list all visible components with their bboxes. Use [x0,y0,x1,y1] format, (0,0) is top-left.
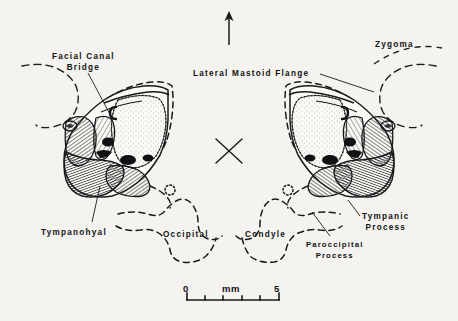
label-lateral-mastoid-flange: Lateral Mastoid Flange [193,69,309,80]
left-petrosal-specimen [22,64,173,208]
right-petrosal-specimen [285,64,436,208]
scale-bar-end-label: 5 [274,283,280,294]
label-facial-canal-bridge-line1: Facial Canal [52,52,115,63]
label-occipital: Occipital [163,230,209,241]
label-paroccipital-process-line1: Paroccipital [306,240,363,251]
label-facial-canal-bridge: Facial Canal Bridge [52,52,115,73]
leader-tympanic-process [348,200,360,216]
label-tympanohyal: Tympanohyal [41,228,107,239]
label-facial-canal-bridge-line2: Bridge [52,63,115,74]
scale-bar-unit-label: mm [222,283,240,294]
label-paroccipital-process: Paroccipital Process [306,240,363,261]
label-tympanic-process-line2: Process [362,223,410,234]
label-tympanic-process-line1: Tympanic [362,212,410,223]
label-tympanic-process: Tympanic Process [362,212,410,233]
label-paroccipital-process-line2: Process [306,251,363,262]
anatomical-figure: Facial Canal Bridge Lateral Mastoid Flan… [0,0,458,321]
midline-x-marker-icon [216,139,242,163]
leader-paroccipital-process [312,212,330,236]
scale-bar-start-label: 0 [183,283,189,294]
label-zygoma: Zygoma [375,40,414,51]
label-condyle: Condyle [245,230,286,241]
scale-bar-graphic [187,293,279,300]
orientation-up-arrow-icon [225,11,234,45]
